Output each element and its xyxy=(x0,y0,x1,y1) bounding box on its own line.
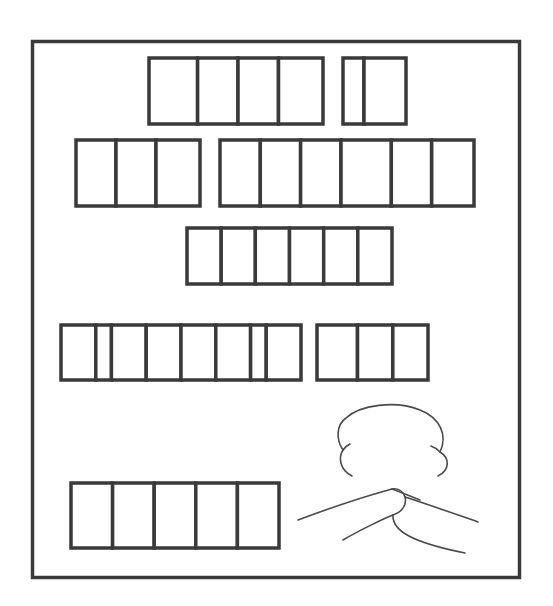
letter-box[interactable] xyxy=(255,228,289,284)
word-group xyxy=(61,325,301,380)
letter-box[interactable] xyxy=(71,483,113,548)
letter-box[interactable] xyxy=(156,140,200,206)
word-group xyxy=(220,140,474,206)
letter-box[interactable] xyxy=(220,140,260,206)
letter-box[interactable] xyxy=(358,325,393,380)
puzzle-line xyxy=(71,483,279,548)
letter-box[interactable] xyxy=(391,140,431,206)
letter-box[interactable] xyxy=(393,325,428,380)
word-group xyxy=(71,483,279,548)
knuckle-right xyxy=(431,446,440,452)
puzzle-diagram xyxy=(0,0,553,606)
letter-box[interactable] xyxy=(116,140,156,206)
letter-box[interactable] xyxy=(146,325,181,380)
clasped-hands-icon xyxy=(298,405,478,553)
puzzle-line xyxy=(76,140,474,206)
puzzle-line xyxy=(149,58,406,124)
letter-box[interactable] xyxy=(221,228,255,284)
letter-box[interactable] xyxy=(324,228,358,284)
right-arm-upper xyxy=(405,497,478,522)
letter-box[interactable] xyxy=(187,228,221,284)
letter-box[interactable] xyxy=(251,325,267,380)
word-group xyxy=(187,228,392,284)
letter-box[interactable] xyxy=(266,325,301,380)
letter-box[interactable] xyxy=(113,483,155,548)
letter-box[interactable] xyxy=(432,140,474,206)
letter-box[interactable] xyxy=(96,325,112,380)
left-arm-upper xyxy=(298,489,392,520)
letter-box[interactable] xyxy=(301,140,341,206)
letter-box[interactable] xyxy=(237,483,279,548)
letter-box[interactable] xyxy=(358,228,392,284)
word-group xyxy=(76,140,200,206)
letter-box[interactable] xyxy=(198,58,239,124)
letter-box[interactable] xyxy=(364,58,406,124)
letter-box[interactable] xyxy=(181,325,216,380)
word-group xyxy=(317,325,428,380)
letter-box[interactable] xyxy=(341,140,391,206)
knuckle-left xyxy=(343,444,350,450)
letter-box[interactable] xyxy=(76,140,116,206)
letter-box[interactable] xyxy=(61,325,96,380)
word-boxes xyxy=(61,58,474,548)
letter-box[interactable] xyxy=(317,325,358,380)
fist-outline xyxy=(338,405,447,476)
letter-box[interactable] xyxy=(111,325,146,380)
puzzle-canvas xyxy=(0,0,553,606)
letter-box[interactable] xyxy=(290,228,324,284)
letter-box[interactable] xyxy=(260,140,300,206)
right-arm-lower xyxy=(393,515,465,553)
letter-box[interactable] xyxy=(149,58,198,124)
letter-box[interactable] xyxy=(154,483,196,548)
puzzle-line xyxy=(187,228,392,284)
letter-box[interactable] xyxy=(238,58,279,124)
puzzle-line xyxy=(61,325,428,380)
letter-box[interactable] xyxy=(279,58,324,124)
letter-box[interactable] xyxy=(196,483,238,548)
word-group xyxy=(149,58,323,124)
letter-box[interactable] xyxy=(216,325,251,380)
word-group xyxy=(343,58,406,124)
left-arm-lower xyxy=(343,515,393,540)
letter-box[interactable] xyxy=(343,58,364,124)
